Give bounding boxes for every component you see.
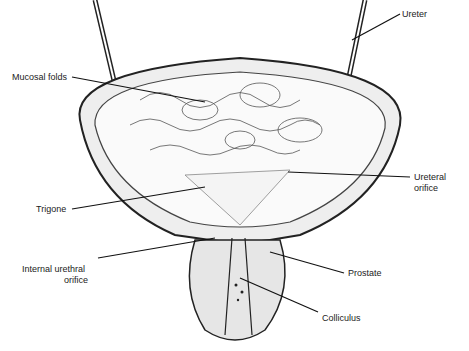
bladder-illustration [0, 0, 469, 351]
label-colliculus: Colliculus [322, 313, 361, 324]
label-internal-urethral-orifice-line2: orifice [64, 275, 88, 286]
label-internal-urethral-orifice-line1: Internal urethral [22, 264, 85, 275]
label-trigone: Trigone [36, 204, 66, 215]
label-ureter: Ureter [402, 9, 427, 20]
label-mucosal-folds: Mucosal folds [12, 72, 67, 83]
label-prostate: Prostate [348, 268, 382, 279]
label-ureteral-orifice-line1: Ureteral [414, 172, 446, 183]
label-ureteral-orifice-line2: orifice [414, 183, 438, 194]
